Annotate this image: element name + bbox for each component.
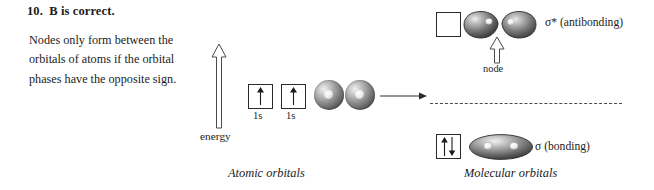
transition-right-arrow-icon xyxy=(380,88,428,106)
bonding-orbital-ellipse-icon xyxy=(468,133,534,165)
antibonding-orbital-label: σ* (antibonding) xyxy=(545,16,623,29)
answer-heading: 10. B is correct. xyxy=(27,4,115,19)
s-orbital-sphere-icon xyxy=(314,80,344,110)
atomic-orbital-box-1s-first xyxy=(248,84,273,109)
energy-axis-arrow-icon xyxy=(210,42,228,134)
caption-atomic-orbitals: Atomic orbitals xyxy=(228,166,305,181)
atomic-orbital-label-1s-first: 1s xyxy=(253,110,262,121)
energy-axis-label: energy xyxy=(200,130,231,142)
spin-up-arrow-icon xyxy=(249,85,272,108)
spin-up-arrow-icon xyxy=(282,85,305,108)
molecular-orbital-box-antibonding xyxy=(436,12,461,37)
paired-spin-arrows-icon xyxy=(437,135,460,158)
molecular-orbital-box-bonding xyxy=(436,134,461,159)
caption-molecular-orbitals: Molecular orbitals xyxy=(464,166,557,181)
atomic-orbital-box-1s-second xyxy=(281,84,306,109)
atomic-orbital-label-1s-second: 1s xyxy=(286,110,295,121)
s-orbital-sphere-icon xyxy=(345,80,375,110)
nonbonding-energy-level-line xyxy=(430,103,622,104)
answer-explanation: Nodes only form between the orbitals of … xyxy=(29,31,201,89)
bonding-orbital-label: σ (bonding) xyxy=(535,140,590,153)
node-label: node xyxy=(483,63,503,74)
